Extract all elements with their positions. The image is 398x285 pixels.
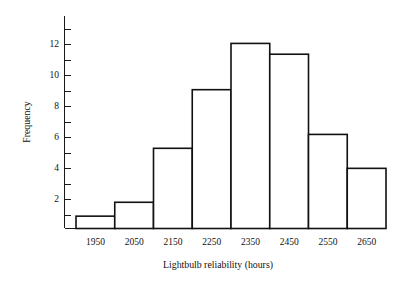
histogram-bar bbox=[309, 134, 348, 228]
y-axis-title: Frequency bbox=[21, 101, 32, 142]
chart-canvas: 12 10 8 6 4 2 1950 2050 2150 2250 2350 2… bbox=[0, 0, 398, 285]
y-tick-label-2: 2 bbox=[54, 194, 59, 204]
x-tick-label-2650: 2650 bbox=[357, 237, 376, 247]
y-tick-label-4: 4 bbox=[54, 163, 59, 173]
x-tick-label-1950: 1950 bbox=[86, 237, 105, 247]
x-tick-label-2350: 2350 bbox=[241, 237, 260, 247]
y-tick-label-10: 10 bbox=[50, 70, 60, 80]
histogram-bar bbox=[192, 90, 231, 229]
y-tick-label-8: 8 bbox=[54, 101, 59, 111]
y-tick-label-12: 12 bbox=[50, 39, 60, 49]
x-tick-label-2150: 2150 bbox=[163, 237, 182, 247]
x-tick-label-2250: 2250 bbox=[202, 237, 221, 247]
histogram-bar bbox=[231, 43, 270, 228]
histogram-figure: 12 10 8 6 4 2 1950 2050 2150 2250 2350 2… bbox=[0, 0, 398, 285]
histogram-bar bbox=[115, 202, 154, 228]
x-tick-label-2550: 2550 bbox=[318, 237, 337, 247]
histogram-bar bbox=[154, 148, 193, 228]
histogram-bar bbox=[76, 216, 115, 228]
y-tick-label-6: 6 bbox=[54, 132, 59, 142]
x-tick-label-2450: 2450 bbox=[280, 237, 299, 247]
x-axis-title: Lightbulb reliability (hours) bbox=[163, 259, 273, 271]
x-tick-label-2050: 2050 bbox=[125, 237, 144, 247]
histogram-bar bbox=[270, 54, 309, 228]
histogram-bar bbox=[347, 168, 386, 228]
